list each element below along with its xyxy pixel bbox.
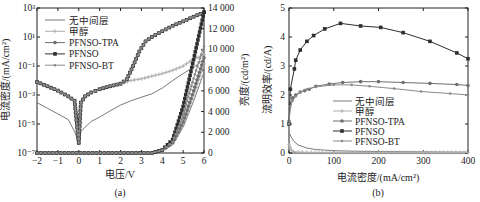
y-tick-label: 3 — [280, 61, 285, 71]
marker-star-icon — [332, 84, 335, 87]
marker-square-icon — [193, 54, 197, 58]
marker-plus-icon — [393, 150, 397, 154]
marker-star-icon — [78, 138, 81, 141]
marker-star-icon — [64, 93, 67, 96]
marker-star-icon — [84, 95, 87, 98]
marker-star-icon — [129, 71, 132, 74]
y-axis-label-a: 电流密度/(mA/cm²) — [0, 39, 12, 121]
marker-star-icon — [91, 152, 94, 155]
marker-plus-icon — [377, 150, 381, 154]
marker-star-icon — [161, 149, 164, 152]
marker-plus-icon — [433, 150, 437, 154]
marker-star-icon — [111, 152, 114, 155]
y-tick-label: 5 — [280, 3, 285, 13]
y-right-tick-label: 10 000 — [208, 44, 234, 54]
marker-plus-icon — [305, 150, 309, 154]
marker-plus-icon — [438, 150, 442, 154]
marker-square-icon — [201, 14, 205, 18]
marker-square-icon — [196, 38, 200, 42]
x-tick-label: 6 — [202, 156, 207, 166]
marker-star-icon — [151, 152, 154, 155]
marker-plus-icon — [462, 150, 466, 154]
marker-star-icon — [79, 117, 82, 120]
x-tick-label: 2 — [118, 156, 123, 166]
series-line — [37, 64, 204, 153]
marker-star-icon — [171, 24, 174, 27]
legend-label: PFNSO-TPA — [355, 117, 405, 127]
marker-circle-icon — [200, 63, 204, 67]
marker-star-icon — [179, 122, 182, 125]
marker-star-icon — [138, 50, 141, 53]
chart-panel-a: −2−1012345610⁻⁷10⁻⁵10⁻³10⁻¹10¹10³02 0004… — [0, 3, 251, 199]
marker-square-icon — [312, 34, 316, 38]
marker-star-icon — [40, 152, 43, 155]
marker-star-icon — [294, 95, 297, 98]
marker-star-icon — [83, 152, 86, 155]
marker-plus-icon — [143, 76, 147, 80]
marker-star-icon — [157, 32, 160, 35]
marker-star-icon — [71, 152, 74, 155]
marker-star-icon — [151, 36, 154, 39]
marker-star-icon — [139, 152, 142, 155]
marker-star-icon — [57, 89, 60, 92]
marker-square-icon — [188, 74, 192, 78]
marker-circle-icon — [201, 60, 205, 64]
marker-star-icon — [60, 91, 63, 94]
marker-star-icon — [67, 152, 70, 155]
x-axis-label-b: 电流密度/(mA/cm²) — [337, 171, 419, 184]
x-tick-label: 200 — [371, 156, 386, 166]
marker-star-icon — [82, 98, 85, 101]
marker-plus-icon — [171, 68, 175, 72]
marker-star-icon — [78, 121, 81, 124]
marker-star-icon — [164, 28, 167, 31]
marker-plus-icon — [53, 29, 57, 33]
y-right-tick-label: 2 000 — [208, 127, 230, 137]
marker-star-icon — [291, 100, 294, 103]
marker-star-icon — [123, 152, 126, 155]
marker-square-icon — [359, 24, 363, 28]
y-tick-label: 10⁻³ — [18, 90, 36, 100]
marker-star-icon — [147, 152, 150, 155]
marker-square-icon — [305, 40, 309, 44]
marker-plus-icon — [421, 150, 425, 154]
marker-star-icon — [368, 85, 371, 88]
legend-b: 无中间层甲醇PFNSO-TPAPFNSOPFNSO-BT — [333, 96, 405, 147]
marker-star-icon — [190, 85, 193, 88]
marker-plus-icon — [321, 150, 325, 154]
marker-circle-icon — [202, 56, 206, 60]
marker-circle-icon — [189, 97, 193, 101]
marker-star-icon — [185, 19, 188, 22]
legend-label: PFNSO-BT — [69, 61, 114, 71]
marker-square-icon — [428, 40, 432, 44]
marker-square-icon — [323, 27, 327, 31]
marker-star-icon — [132, 65, 135, 68]
marker-square-icon — [199, 26, 203, 30]
marker-square-icon — [184, 93, 188, 97]
legend-a: 无中间层甲醇PFNSO-TPAPFNSOPFNSO-BT — [45, 15, 119, 71]
marker-plus-icon — [466, 150, 470, 154]
marker-star-icon — [109, 85, 112, 88]
marker-circle-icon — [377, 80, 381, 84]
marker-plus-icon — [454, 150, 458, 154]
marker-plus-icon — [136, 77, 140, 81]
x-tick-label: 4 — [160, 156, 165, 166]
marker-circle-icon — [199, 67, 203, 71]
marker-square-icon — [340, 129, 344, 133]
marker-square-icon — [298, 48, 302, 52]
marker-star-icon — [143, 152, 146, 155]
marker-star-icon — [449, 92, 452, 95]
marker-star-icon — [201, 49, 204, 52]
marker-star-icon — [288, 123, 291, 126]
marker-star-icon — [74, 103, 77, 106]
marker-star-icon — [188, 92, 191, 95]
marker-star-icon — [196, 14, 199, 17]
marker-plus-icon — [129, 79, 133, 83]
marker-plus-icon — [385, 150, 389, 154]
marker-star-icon — [122, 80, 125, 83]
y-right-tick-label: 4 000 — [208, 107, 230, 117]
marker-star-icon — [54, 64, 57, 67]
marker-star-icon — [306, 88, 309, 91]
marker-star-icon — [78, 125, 81, 128]
marker-plus-icon — [413, 150, 417, 154]
marker-star-icon — [99, 152, 102, 155]
